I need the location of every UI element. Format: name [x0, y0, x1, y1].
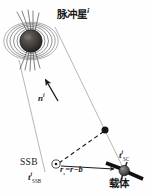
- time-sc-superscript: i: [122, 149, 124, 155]
- pulsar-label-index: i: [87, 7, 89, 15]
- wavefront-line-right: [55, 27, 126, 174]
- pulsar-label: 脉冲星i: [57, 8, 89, 19]
- direction-vector-index: i: [43, 92, 45, 98]
- wavefront-intersection-dot: [102, 127, 109, 134]
- time-ssb-label: tiSSB: [28, 172, 41, 184]
- dashed-projection-line: [59, 132, 103, 163]
- time-sc-label: tiSC: [119, 150, 129, 162]
- pulsar-sphere: [20, 30, 42, 52]
- direction-arrow: [46, 80, 59, 102]
- ssb-origin-marker: [52, 160, 60, 168]
- range-equation-rest: =r−b: [65, 164, 83, 174]
- ssb-label: SSB: [20, 158, 38, 168]
- time-sc-subscript: SC: [123, 157, 129, 162]
- pulsar-label-text: 脉冲星: [57, 8, 87, 20]
- time-ssb-superscript: i: [31, 171, 33, 177]
- time-ssb-subscript: SSB: [32, 179, 41, 184]
- pulsar-navigation-diagram: 脉冲星i ni SSB tiSSB rs=r−b tiSC 载体: [0, 0, 151, 195]
- direction-vector-label: ni: [38, 93, 45, 103]
- wavefront-line-left: [19, 60, 45, 172]
- spacecraft-label: 载体: [109, 178, 129, 189]
- range-equation-label: rs=r−b: [60, 165, 83, 176]
